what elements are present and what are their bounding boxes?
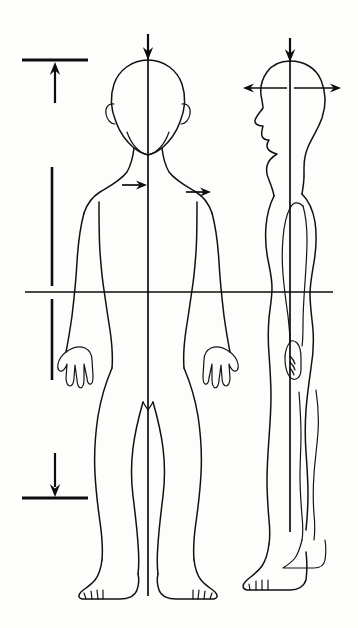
anterior-right-leg-outer <box>184 368 201 560</box>
anterior-right-toes <box>193 590 212 599</box>
anterior-left-hand <box>58 347 93 388</box>
anterior-left-leg-outer <box>95 368 112 560</box>
lateral-shoulder-cap <box>290 203 303 208</box>
chest-arrow-left <box>122 181 147 190</box>
alignment-diagram <box>0 0 358 628</box>
lateral-front-contour <box>266 196 274 544</box>
crown-arrow-lateral <box>285 38 295 62</box>
figure-canvas <box>0 0 358 628</box>
lateral-far-leg-back <box>313 390 318 540</box>
lateral-arm-front <box>282 208 290 342</box>
upper-gauge <box>22 60 88 103</box>
anterior-neck-right <box>162 148 212 213</box>
anterior-trunk-right <box>184 202 197 368</box>
anterior-trunk-left <box>99 202 112 368</box>
anterior-right-arm-outer <box>212 213 230 352</box>
lateral-forehead-face-profile <box>255 61 290 196</box>
head-transverse-axis <box>243 84 341 93</box>
lateral-figure <box>243 48 326 590</box>
lower-gauge <box>22 453 88 498</box>
lateral-near-toes <box>249 580 268 590</box>
lateral-neck-back <box>302 176 304 194</box>
anterior-figure <box>58 48 239 599</box>
anterior-right-hand <box>203 347 238 388</box>
anterior-right-leg-inner <box>153 402 165 574</box>
anterior-right-foot <box>157 560 217 599</box>
lateral-head-outline <box>290 61 325 176</box>
anterior-neck-left <box>84 148 134 213</box>
lateral-near-foot <box>243 544 307 590</box>
anterior-left-leg-inner <box>132 402 144 574</box>
lateral-far-leg-front <box>299 392 303 540</box>
anterior-left-foot <box>79 560 139 599</box>
anterior-left-toes <box>84 590 103 599</box>
lateral-far-foot <box>283 540 326 568</box>
lateral-arm-back <box>302 206 307 346</box>
anterior-left-arm-outer <box>66 213 84 352</box>
crown-arrow-anterior <box>143 34 153 60</box>
